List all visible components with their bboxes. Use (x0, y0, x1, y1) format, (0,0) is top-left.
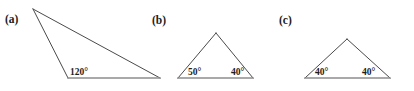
panel-c-label: (c) (279, 14, 292, 27)
panel-a-label: (a) (5, 13, 19, 26)
panel-a-left-edge (33, 9, 68, 78)
panel-a: (a) 120° (5, 9, 160, 78)
panel-b-angle-bottom-left: 50° (188, 67, 202, 77)
panel-a-angle-bottom-left: 120° (70, 67, 88, 77)
triangles-figure: (a) 120° (b) 50° 40° (c) 40° 40° (0, 0, 414, 91)
panel-c-angle-bottom-left: 40° (315, 67, 329, 77)
panel-a-upper-edge (33, 9, 160, 78)
figure-canvas: (a) 120° (b) 50° 40° (c) 40° 40° (0, 0, 414, 91)
panel-b-label: (b) (152, 14, 166, 27)
panel-b: (b) 50° 40° (152, 14, 253, 78)
panel-b-angle-bottom-right: 40° (231, 67, 245, 77)
panel-c-angle-bottom-right: 40° (362, 67, 376, 77)
panel-c: (c) 40° 40° (279, 14, 390, 78)
